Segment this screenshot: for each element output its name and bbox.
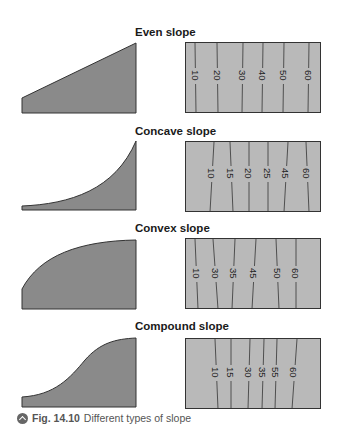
chevron-up-circle-icon — [17, 413, 28, 424]
figure-caption: Fig. 14.10 Different types of slope — [17, 412, 191, 424]
caption-text: Different types of slope — [84, 412, 191, 424]
svg-text:30: 30 — [243, 367, 254, 378]
svg-text:55: 55 — [270, 367, 281, 378]
figure-number: Fig. 14.10 — [32, 412, 80, 424]
svg-text:15: 15 — [225, 367, 236, 378]
compound-slope-contour-map: 10 15 30 35 55 60 — [185, 338, 321, 410]
svg-text:10: 10 — [210, 367, 221, 378]
svg-text:35: 35 — [257, 367, 268, 378]
svg-text:60: 60 — [288, 367, 299, 378]
